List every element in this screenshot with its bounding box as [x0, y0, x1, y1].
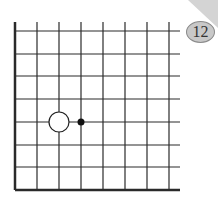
board-grid	[15, 22, 180, 190]
problem-number-badge: 12	[186, 21, 215, 43]
white-stone	[49, 112, 69, 132]
black-dot-marker	[78, 119, 85, 126]
problem-number: 12	[193, 23, 209, 41]
board-stones	[49, 112, 85, 132]
